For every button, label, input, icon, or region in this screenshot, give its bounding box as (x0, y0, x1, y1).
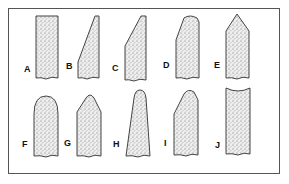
label-e: E (214, 60, 220, 70)
label-f: F (22, 139, 28, 149)
shape-h (126, 90, 150, 157)
label-g: G (64, 138, 71, 148)
label-j: J (215, 140, 220, 150)
label-a: A (24, 64, 31, 74)
shape-j (226, 88, 250, 155)
shape-f (34, 96, 58, 157)
label-d: D (163, 60, 170, 70)
shapes-diagram (0, 0, 289, 184)
label-h: H (113, 139, 120, 149)
label-i: I (164, 138, 167, 148)
label-c: C (112, 63, 119, 73)
label-b: B (66, 61, 73, 71)
shape-g (77, 95, 101, 157)
shape-c (125, 16, 146, 81)
shape-e (226, 14, 249, 79)
shape-b (78, 16, 99, 79)
shape-a (36, 16, 58, 79)
shape-d (176, 16, 199, 79)
shape-i (174, 90, 198, 156)
